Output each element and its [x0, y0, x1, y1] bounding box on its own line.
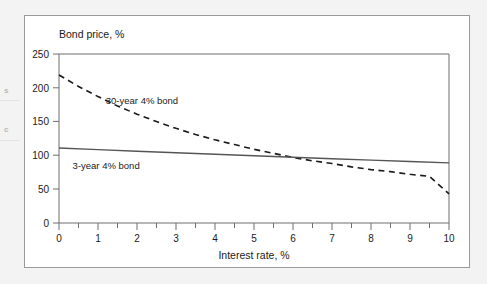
page-canvas: s c Bond price, %	[0, 0, 487, 284]
x-tick-label-6: 6	[290, 233, 296, 244]
y-axis-tick-labels: 250 200 150 100 50 0	[32, 49, 49, 229]
x-axis-tick-labels: 0 1 2 3 4 5 6 7 8 9 10	[56, 233, 455, 244]
y-tick-label-50: 50	[38, 184, 50, 195]
x-tick-label-9: 9	[407, 233, 413, 244]
series-annotation-3-year-bond: 3-year 4% bond	[73, 160, 140, 171]
bond-price-chart: Bond price, % 250 200 150 100 50 0	[25, 16, 471, 269]
x-axis-title: Interest rate, %	[218, 249, 289, 261]
series-annotation-30-year-bond: 30-year 4% bond	[106, 95, 178, 106]
margin-bleed-fragment-1: s	[4, 86, 8, 95]
x-tick-label-7: 7	[329, 233, 335, 244]
x-tick-label-3: 3	[173, 233, 179, 244]
series-line-30-year-bond	[59, 75, 449, 194]
y-tick-label-150: 150	[32, 116, 49, 127]
x-tick-label-2: 2	[134, 233, 140, 244]
x-tick-label-4: 4	[212, 233, 218, 244]
x-tick-label-10: 10	[443, 233, 455, 244]
x-tick-label-1: 1	[95, 233, 101, 244]
y-axis-title: Bond price, %	[59, 28, 124, 40]
margin-rule-top	[0, 100, 20, 101]
x-tick-label-5: 5	[251, 233, 257, 244]
y-axis-ticks	[53, 54, 59, 223]
margin-bleed-fragment-2: c	[4, 125, 8, 134]
plot-frame	[59, 54, 449, 223]
figure-box: Bond price, % 250 200 150 100 50 0	[24, 15, 470, 268]
y-tick-label-250: 250	[32, 49, 49, 60]
x-tick-label-0: 0	[56, 233, 62, 244]
y-tick-label-0: 0	[43, 218, 49, 229]
x-tick-label-8: 8	[368, 233, 374, 244]
y-tick-label-200: 200	[32, 83, 49, 94]
margin-rule-bottom	[0, 140, 20, 141]
y-tick-label-100: 100	[32, 150, 49, 161]
